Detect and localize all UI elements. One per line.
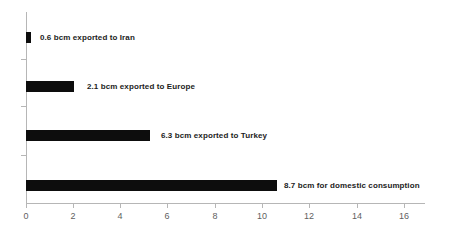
x-axis-tick-16: [404, 203, 405, 208]
x-axis-label: 16: [392, 211, 416, 222]
x-axis-tick-8: [215, 203, 216, 208]
x-axis-label: 10: [250, 211, 274, 222]
x-axis-label: 8: [203, 211, 227, 222]
y-axis-tick: [21, 59, 26, 60]
x-axis-label: 2: [61, 211, 85, 222]
bar-value-label: 6.3 bcm exported to Turkey: [161, 130, 267, 141]
bar-value-label: 8.7 bcm for domestic consumption: [284, 180, 420, 191]
y-axis-tick: [21, 106, 26, 107]
x-axis-tick-4: [120, 203, 121, 208]
x-axis-label: 6: [155, 211, 179, 222]
x-axis-tick-12: [309, 203, 310, 208]
x-axis-tick-2: [73, 203, 74, 208]
x-axis-tick-6: [167, 203, 168, 208]
x-axis-label: 12: [297, 211, 321, 222]
y-axis-tick: [21, 155, 26, 156]
bar-europe[interactable]: [26, 81, 74, 92]
x-axis-tick-0: [26, 203, 27, 208]
bar-iran[interactable]: [26, 32, 31, 43]
horizontal-bar-chart: 0 2 4 6 8 10 12 14 16 0.6 bcm exported t…: [0, 0, 450, 242]
x-axis-tick-10: [262, 203, 263, 208]
x-axis-tick-14: [357, 203, 358, 208]
bar-domestic[interactable]: [26, 180, 277, 191]
bar-value-label: 0.6 bcm exported to Iran: [40, 32, 135, 43]
x-axis-label: 14: [345, 211, 369, 222]
x-axis-label: 0: [14, 211, 38, 222]
bar-value-label: 2.1 bcm exported to Europe: [87, 81, 195, 92]
x-axis-line: [26, 203, 425, 204]
bar-turkey[interactable]: [26, 130, 150, 141]
x-axis-label: 4: [108, 211, 132, 222]
